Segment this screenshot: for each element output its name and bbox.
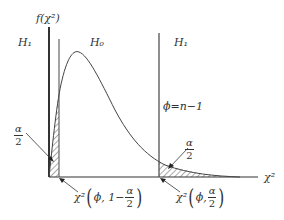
x-axis-label: χ² (264, 172, 275, 183)
upper-critical-value-label: χ² ( ϕ, α2 ) (176, 186, 226, 209)
region-label-h0: H₀ (90, 37, 104, 48)
left-tail-alpha-half: α 2 (14, 124, 23, 147)
lower-critical-value-label: χ² ( ϕ, 1− α2 ) (74, 186, 144, 209)
region-label-right-h1: H₁ (174, 37, 188, 48)
dof-label: ϕ=n−1 (163, 101, 203, 112)
region-label-left-h1: H₁ (18, 37, 32, 48)
y-axis-label: f(χ²) (36, 13, 60, 24)
density-curve (49, 52, 240, 177)
right-tail-alpha-half: α 2 (185, 138, 194, 161)
